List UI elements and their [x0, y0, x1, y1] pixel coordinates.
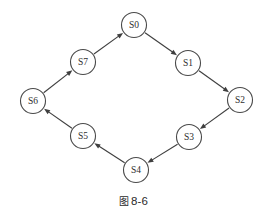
- state-node-s7[interactable]: S7: [71, 50, 96, 75]
- edge-s7-to-s0: [94, 33, 123, 54]
- state-label-s1: S1: [183, 58, 193, 68]
- arrowhead-s2-icon: [223, 87, 229, 92]
- arrowhead-s3-icon: [200, 124, 206, 129]
- state-node-s2[interactable]: S2: [228, 88, 253, 113]
- edge-s0-to-s1: [145, 33, 177, 55]
- state-label-s6: S6: [28, 96, 38, 106]
- state-node-s5[interactable]: S5: [71, 124, 96, 149]
- edges-group: [44, 33, 229, 163]
- arrowhead-s5-icon: [94, 143, 100, 148]
- nodes-group: S0S1S2S3S4S5S6S7: [21, 13, 253, 183]
- state-label-s5: S5: [78, 131, 88, 141]
- state-diagram: S0S1S2S3S4S5S6S7: [0, 0, 267, 224]
- state-node-s6[interactable]: S6: [21, 89, 46, 114]
- edge-s6-to-s7: [44, 70, 73, 92]
- arrowhead-s6-icon: [44, 109, 50, 114]
- edge-s5-to-s6: [44, 109, 72, 129]
- edge-s3-to-s4: [147, 144, 177, 163]
- state-label-s0: S0: [129, 20, 139, 30]
- state-node-s4[interactable]: S4: [124, 158, 149, 183]
- state-node-s0[interactable]: S0: [122, 13, 147, 38]
- arrowhead-s1-icon: [171, 50, 177, 55]
- state-node-s3[interactable]: S3: [177, 125, 202, 150]
- figure-caption: 图8-6: [0, 193, 267, 209]
- edge-s1-to-s2: [199, 71, 229, 92]
- arrowhead-s4-icon: [147, 158, 153, 163]
- state-label-s4: S4: [131, 165, 141, 175]
- state-label-s2: S2: [235, 95, 245, 105]
- edge-s4-to-s5: [94, 143, 124, 162]
- state-node-s1[interactable]: S1: [176, 51, 201, 76]
- arrowhead-s0-icon: [117, 33, 123, 38]
- caption-glyph-icon: 图: [119, 194, 129, 209]
- state-label-s3: S3: [184, 132, 194, 142]
- caption-number: 8-6: [131, 194, 148, 209]
- state-label-s7: S7: [78, 57, 88, 67]
- figure-container: S0S1S2S3S4S5S6S7 图8-6: [0, 0, 267, 224]
- edge-s2-to-s3: [200, 108, 229, 129]
